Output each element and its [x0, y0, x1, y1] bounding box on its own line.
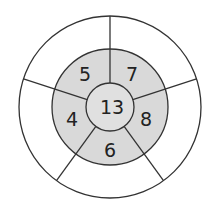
ring-value-right: 8 [140, 108, 152, 130]
number-wheel-diagram: 13 5 7 8 6 4 [0, 0, 207, 213]
ring-value-upper-right: 7 [126, 63, 138, 85]
ring-value-upper-left: 5 [79, 63, 91, 85]
center-value: 13 [100, 96, 124, 118]
ring-value-left: 4 [66, 108, 78, 130]
ring-value-bottom: 6 [104, 139, 116, 161]
